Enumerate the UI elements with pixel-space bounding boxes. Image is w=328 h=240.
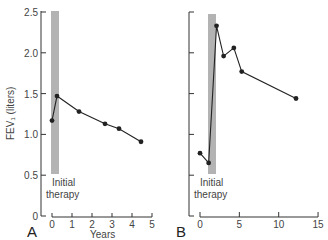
data-point xyxy=(294,96,299,101)
x-tick-label: 1 xyxy=(69,219,75,230)
data-point xyxy=(206,161,211,166)
panel-b: 051015 Initial therapy B xyxy=(176,12,324,240)
x-tick-label: 0 xyxy=(49,219,55,230)
x-tick-label: 15 xyxy=(312,219,324,230)
y-tick-label: 0.5 xyxy=(24,170,38,181)
data-point xyxy=(55,94,60,99)
data-point xyxy=(103,121,108,126)
data-point xyxy=(139,139,144,144)
therapy-label-b-1: Initial xyxy=(200,177,223,188)
y-axis-title: FEV₁ (liters) xyxy=(5,87,16,140)
x-tick-label: 5 xyxy=(149,219,155,230)
panel-letter-a: A xyxy=(27,223,37,240)
x-tick-label: 5 xyxy=(237,219,243,230)
data-point xyxy=(221,54,226,59)
fev-chart: 00.51.01.52.02.5 012345 Initial therapy … xyxy=(0,0,328,240)
x-tick-label: 4 xyxy=(129,219,135,230)
data-point xyxy=(50,118,55,123)
y-tick-label: 1.5 xyxy=(24,89,38,100)
x-tick-label: 0 xyxy=(197,219,203,230)
y-tick-label: 2.0 xyxy=(24,48,38,59)
therapy-label-b-2: therapy xyxy=(194,189,227,200)
therapy-label-a-2: therapy xyxy=(46,189,79,200)
data-point xyxy=(198,151,203,156)
panel-a: 00.51.01.52.02.5 012345 Initial therapy … xyxy=(5,7,155,240)
data-point xyxy=(117,126,122,131)
y-tick-label: 1.0 xyxy=(24,129,38,140)
y-tick-label: 2.5 xyxy=(24,7,38,18)
x-axis-title: Years xyxy=(90,229,115,240)
data-point xyxy=(214,23,219,28)
therapy-label-a-1: Initial xyxy=(52,177,75,188)
y-tick-label: 0 xyxy=(32,211,38,222)
data-point xyxy=(77,109,82,114)
x-tick-label: 10 xyxy=(273,219,285,230)
data-point xyxy=(231,46,236,51)
panel-letter-b: B xyxy=(176,223,186,240)
therapy-band-a xyxy=(51,11,59,174)
data-point xyxy=(239,69,244,74)
series-line-a xyxy=(52,96,141,142)
